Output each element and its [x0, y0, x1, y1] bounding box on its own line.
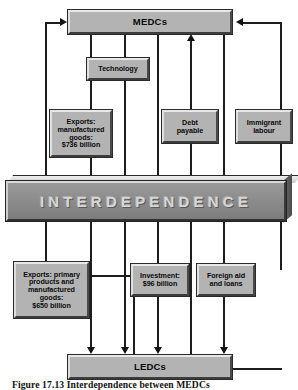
arrowhead-right-icon: [60, 18, 67, 26]
arrowhead-up-icon: [187, 34, 195, 41]
node-exports-manufactured-line4: $736 billion: [60, 141, 103, 149]
connector-line: [90, 220, 92, 348]
banner-face: INTERDEPENDENCE: [6, 181, 286, 221]
node-investment-line2: $96 billion: [141, 280, 180, 288]
figure-interdependence-diagram: MEDCs LEDCs INTERDEPENDENCE Technology E…: [0, 0, 298, 390]
connector-line: [242, 22, 282, 24]
connector-line: [124, 34, 126, 176]
connector-line: [223, 34, 225, 176]
connector-line-left-outer: [45, 22, 47, 277]
connector-line: [45, 22, 61, 24]
node-ledcs-label: LEDCs: [132, 362, 168, 372]
node-immigrant-labour[interactable]: Immigrant labour: [236, 110, 292, 143]
node-foreign-aid[interactable]: Foreign aid and loans: [197, 264, 255, 296]
node-medcs-label: MEDCs: [131, 17, 169, 27]
arrowhead-left-icon: [236, 18, 243, 26]
connector-line-right-outer: [280, 22, 282, 270]
node-medcs[interactable]: MEDCs: [68, 10, 232, 34]
node-technology-label: Technology: [96, 65, 139, 73]
node-investment[interactable]: Investment: $96 billion: [131, 264, 189, 296]
connector-line: [157, 34, 159, 176]
figure-caption: Figure 17.13 Interdependence between MED…: [12, 379, 298, 390]
node-ledcs[interactable]: LEDCs: [68, 355, 232, 379]
node-debt-payable-line2: payable: [175, 127, 205, 135]
arrowhead-down-icon: [121, 347, 129, 354]
node-debt-payable[interactable]: Debt payable: [162, 110, 218, 143]
connector-line: [124, 220, 126, 348]
node-foreign-aid-line2: and loans: [207, 280, 244, 288]
node-exports-manufactured[interactable]: Exports: manufactured goods: $736 billio…: [50, 110, 112, 157]
arrowhead-down-icon: [87, 347, 95, 354]
arrowhead-down-icon: [220, 347, 228, 354]
node-exports-primary[interactable]: Exports: primary products and manufactur…: [14, 262, 89, 318]
connector-line: [190, 220, 192, 355]
node-technology[interactable]: Technology: [87, 58, 149, 80]
connector-line: [230, 368, 282, 370]
connector-line: [190, 40, 192, 176]
node-immigrant-labour-line2: labour: [251, 127, 277, 135]
node-exports-primary-line5: $650 billion: [30, 302, 73, 310]
banner-label: INTERDEPENDENCE: [40, 193, 252, 210]
arrowhead-down-icon: [154, 347, 162, 354]
interdependence-banner: INTERDEPENDENCE: [6, 175, 292, 221]
